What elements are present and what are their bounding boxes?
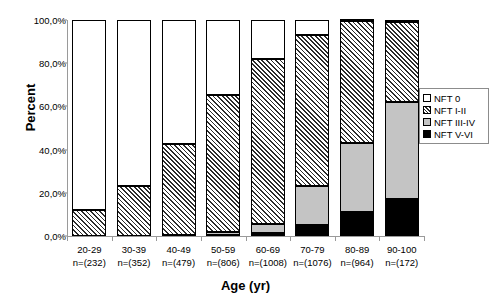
bar-segment-nft0 <box>385 20 419 22</box>
bar-80-89[interactable] <box>340 20 374 236</box>
bar-segment-nft34 <box>385 102 419 199</box>
bar-segment-nft56 <box>295 225 329 236</box>
chart-legend: NFT 0NFT I-IINFT III-IVNFT V-VI <box>419 88 489 144</box>
legend-item-label: NFT V-VI <box>434 129 473 140</box>
legend-swatch-icon <box>423 106 431 114</box>
bar-segment-nft12 <box>385 22 419 102</box>
bar-30-39[interactable] <box>117 20 151 236</box>
x-axis-tick-mark <box>156 236 157 241</box>
y-axis-tick-mark <box>62 192 67 193</box>
x-axis-tick-mark <box>335 236 336 241</box>
bar-segment-nft0 <box>72 20 106 210</box>
bar-segment-nft12 <box>72 210 106 236</box>
legend-item-label: NFT 0 <box>434 93 460 104</box>
bar-segment-nft0 <box>206 20 240 95</box>
legend-item-nft56[interactable]: NFT V-VI <box>423 128 484 140</box>
bar-segment-nft56 <box>251 233 285 236</box>
bar-segment-nft56 <box>340 212 374 236</box>
x-axis-tick-mark <box>379 236 380 241</box>
x-axis-tick-mark <box>201 236 202 241</box>
bar-segment-nft12 <box>340 21 374 143</box>
x-axis-tick-mark <box>424 236 425 241</box>
bar-segment-nft0 <box>117 20 151 186</box>
y-axis-tick-mark <box>62 20 67 21</box>
legend-swatch-icon <box>423 130 431 138</box>
x-axis-tick-mark <box>246 236 247 241</box>
bar-segment-nft12 <box>162 144 196 235</box>
bar-segment-nft0 <box>295 20 329 35</box>
y-axis-tick-mark <box>62 63 67 64</box>
legend-item-label: NFT III-IV <box>434 117 475 128</box>
legend-swatch-icon <box>423 94 431 102</box>
bar-segment-nft12 <box>295 35 329 186</box>
x-axis-sample-count: n=(172) <box>376 256 428 269</box>
x-axis-tick-mark <box>67 236 68 241</box>
stacked-bar-chart: Percent 0,0%20,0%40,0%60,0%80,0%100,0% 2… <box>0 0 493 304</box>
bar-20-29[interactable] <box>72 20 106 236</box>
bar-segment-nft0 <box>251 20 285 59</box>
bar-90-100[interactable] <box>385 20 419 236</box>
bar-segment-nft34 <box>251 224 285 233</box>
plot-area <box>67 20 424 236</box>
bar-segment-nft56 <box>385 199 419 236</box>
bar-40-49[interactable] <box>162 20 196 236</box>
bar-segment-nft34 <box>206 232 240 235</box>
y-axis-tick-mark <box>62 149 67 150</box>
bar-60-69[interactable] <box>251 20 285 236</box>
legend-item-nft12[interactable]: NFT I-II <box>423 104 484 116</box>
y-axis-tick-labels: 0,0%20,0%40,0%60,0%80,0%100,0% <box>22 0 66 304</box>
legend-item-nft0[interactable]: NFT 0 <box>423 92 484 104</box>
x-axis-category: 90-100 <box>376 243 428 256</box>
x-axis-tick-label: 90-100n=(172) <box>376 243 428 269</box>
y-axis-tick-mark <box>62 106 67 107</box>
bar-segment-nft0 <box>162 20 196 144</box>
legend-item-nft34[interactable]: NFT III-IV <box>423 116 484 128</box>
bar-segment-nft12 <box>251 59 285 224</box>
bar-50-59[interactable] <box>206 20 240 236</box>
bar-segment-nft34 <box>340 143 374 212</box>
x-axis-tick-mark <box>290 236 291 241</box>
bar-segment-nft0 <box>340 19 374 21</box>
x-axis-tick-mark <box>112 236 113 241</box>
bar-segment-nft12 <box>117 186 151 236</box>
legend-swatch-icon <box>423 118 431 126</box>
bar-70-79[interactable] <box>295 20 329 236</box>
x-axis-tick-labels: 20-29n=(232)30-39n=(352)40-49n=(479)50-5… <box>67 243 424 277</box>
legend-item-label: NFT I-II <box>434 105 466 116</box>
bar-segment-nft34 <box>295 186 329 225</box>
x-axis-title: Age (yr) <box>67 278 424 293</box>
bar-segment-nft12 <box>206 95 240 232</box>
